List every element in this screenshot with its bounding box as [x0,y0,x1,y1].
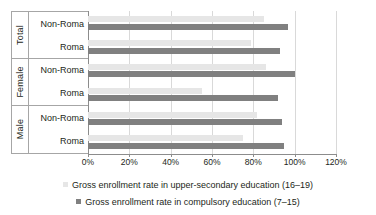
tick-label-60: 60% [203,157,220,167]
group-label-total: Total [12,12,29,58]
bar-total-roma-upper-secondary [88,40,251,46]
group-label-female: Female [12,59,29,105]
legend: Gross enrollment rate in upper-secondary… [0,176,376,210]
tick-label-20: 20% [121,157,138,167]
bar-male-non-roma-upper-secondary [88,112,257,118]
bar-fill [88,64,266,70]
category-label-male-roma: Roma [29,129,88,153]
group-female-categories: Non-Roma Roma [29,59,88,105]
bar-female-non-roma-upper-secondary [88,64,266,70]
bar-fill [88,40,251,46]
legend-item-upper-secondary: Gross enrollment rate in upper-secondary… [0,176,376,193]
bar-total-non-roma-upper-secondary [88,16,264,22]
bar-fill [88,24,288,30]
bar-fill [88,71,295,77]
bar-female-non-roma-compulsory [88,71,295,77]
gridline-20 [129,11,130,154]
group-male: Male Non-Roma Roma [12,106,88,153]
group-female: Female Non-Roma Roma [12,59,88,106]
legend-swatch-compulsory [76,199,81,204]
tick-label-0: 0% [82,157,94,167]
category-axis: Total Non-Roma Roma Female Non-Roma Roma… [11,11,88,154]
category-label-male-non-roma: Non-Roma [29,106,88,130]
gridline-40 [171,11,172,154]
category-label-female-roma: Roma [29,82,88,105]
bar-fill [88,135,243,141]
tick-label-100: 100% [284,157,306,167]
legend-label-upper-secondary: Gross enrollment rate in upper-secondary… [72,180,313,190]
bar-male-roma-compulsory [88,143,284,149]
bar-fill [88,16,264,22]
tick-label-80: 80% [245,157,262,167]
bar-chart: Total Non-Roma Roma Female Non-Roma Roma… [0,0,376,215]
gridline-120 [336,11,337,154]
value-axis-line [88,11,89,154]
category-label-total-non-roma: Non-Roma [29,12,88,35]
group-label-male-text: Male [15,119,25,139]
group-total-categories: Non-Roma Roma [29,12,88,58]
category-label-female-non-roma: Non-Roma [29,59,88,82]
category-label-total-roma: Roma [29,35,88,58]
bar-female-roma-compulsory [88,95,278,101]
bar-male-roma-upper-secondary [88,135,243,141]
bar-male-non-roma-compulsory [88,119,282,125]
bar-fill [88,48,280,54]
bar-total-roma-compulsory [88,48,280,54]
tick-label-40: 40% [162,157,179,167]
bar-fill [88,95,278,101]
gridline-100 [295,11,296,154]
gridline-60 [212,11,213,154]
group-label-male: Male [12,106,29,153]
bar-female-roma-upper-secondary [88,88,202,94]
legend-label-compulsory: Gross enrollment rate in compulsory educ… [85,197,300,207]
legend-item-compulsory: Gross enrollment rate in compulsory educ… [0,193,376,210]
tick-label-120: 120% [325,157,347,167]
bar-fill [88,143,284,149]
bar-fill [88,88,202,94]
legend-swatch-upper-secondary [63,182,68,187]
group-label-female-text: Female [15,66,25,97]
bar-fill [88,119,282,125]
bar-fill [88,112,257,118]
plot-area [88,11,336,154]
gridline-80 [253,11,254,154]
bar-total-non-roma-compulsory [88,24,288,30]
group-total: Total Non-Roma Roma [12,12,88,59]
group-label-total-text: Total [15,25,25,45]
group-male-categories: Non-Roma Roma [29,106,88,153]
